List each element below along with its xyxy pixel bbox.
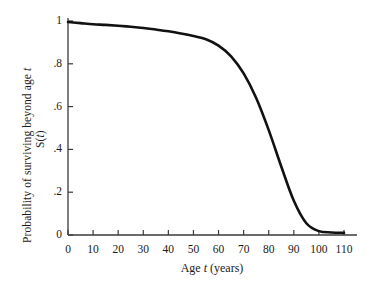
y-tick-label: .6 <box>40 101 62 113</box>
y-axis-title-variable: t <box>21 68 33 71</box>
y-axis-title-text: Probability of surviving beyond age <box>21 71 33 243</box>
data-series-group <box>68 22 344 233</box>
axis-lines <box>68 18 357 235</box>
survival-curve-line <box>68 22 344 233</box>
survival-curve-figure: S(t) Probability of surviving beyond age… <box>0 0 372 289</box>
y-tick-label: 1 <box>40 15 62 27</box>
x-axis-title: Age t (years) <box>68 261 356 276</box>
y-axis-ticks <box>68 21 73 235</box>
x-axis-ticks <box>68 230 344 235</box>
y-tick-label: .2 <box>40 186 62 198</box>
y-axis-title-line-2: Probability of surviving beyond age t <box>21 68 33 243</box>
y-tick-label: 0 <box>40 229 62 241</box>
x-axis-title-tail: (years) <box>207 261 243 275</box>
y-tick-label: .8 <box>40 58 62 70</box>
x-tick-label: 110 <box>327 244 361 256</box>
y-axis-title-st-variable: t <box>34 134 46 137</box>
y-axis-title-st-suffix: ) <box>34 130 46 134</box>
y-axis-title-group: S(t) Probability of surviving beyond age… <box>0 0 44 250</box>
x-axis-title-text: Age <box>181 261 204 275</box>
y-tick-label: .4 <box>40 143 62 155</box>
